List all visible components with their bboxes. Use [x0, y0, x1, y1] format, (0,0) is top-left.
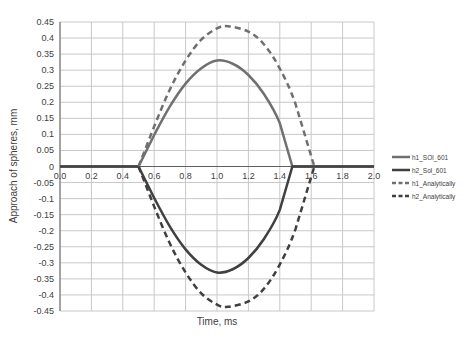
y-tick-label: 0.15 [36, 113, 54, 123]
x-tick-label: 1.4 [274, 171, 287, 181]
x-tick-label: 0.8 [179, 171, 192, 181]
series-line-h2-analytically [139, 167, 315, 308]
x-tick-label: 0.4 [117, 171, 130, 181]
y-tick-label: -0.1 [38, 194, 54, 204]
y-axis-ticks: 0.450.40.350.30.250.20.150.10.050-0.05-0… [33, 17, 54, 316]
x-tick-label: 0.0 [54, 171, 67, 181]
x-tick-label: 0.6 [148, 171, 161, 181]
y-tick-label: 0.4 [41, 33, 54, 43]
x-tick-label: 1.0 [211, 171, 224, 181]
legend: h1_SOl_601h2_Sol_601h1_Analyticallyh2_An… [392, 154, 456, 201]
legend-label: h1_Analytically [412, 180, 456, 188]
legend-label: h2_Analytically [412, 193, 456, 201]
x-tick-label: 0.2 [85, 171, 98, 181]
x-tick-label: 1.2 [242, 171, 255, 181]
y-tick-label: 0.35 [36, 49, 54, 59]
y-tick-label: -0.25 [33, 242, 54, 252]
y-tick-label: 0.2 [41, 97, 54, 107]
legend-label: h1_SOl_601 [412, 154, 449, 162]
x-axis-ticks: 0.00.20.40.60.81.01.21.41.61.82.0 [54, 171, 381, 181]
series-line-h1-analytically [139, 26, 315, 167]
y-tick-label: 0.1 [41, 129, 54, 139]
y-tick-label: 0.05 [36, 145, 54, 155]
line-chart: 0.450.40.350.30.250.20.150.10.050-0.05-0… [0, 0, 475, 342]
y-tick-label: -0.15 [33, 210, 54, 220]
y-tick-label: -0.4 [38, 290, 54, 300]
y-tick-label: -0.2 [38, 226, 54, 236]
legend-label: h2_Sol_601 [412, 167, 447, 175]
y-tick-label: -0.3 [38, 258, 54, 268]
x-tick-label: 1.8 [336, 171, 349, 181]
y-tick-label: 0.3 [41, 65, 54, 75]
y-tick-label: -0.05 [33, 178, 54, 188]
y-tick-label: -0.35 [33, 274, 54, 284]
y-tick-label: -0.45 [33, 306, 54, 316]
y-tick-label: 0.45 [36, 17, 54, 27]
x-axis-title: Time, ms [197, 316, 238, 327]
y-tick-label: 0.25 [36, 81, 54, 91]
y-axis-title: Approach of spheres, mm [8, 109, 19, 224]
x-tick-label: 2.0 [368, 171, 381, 181]
